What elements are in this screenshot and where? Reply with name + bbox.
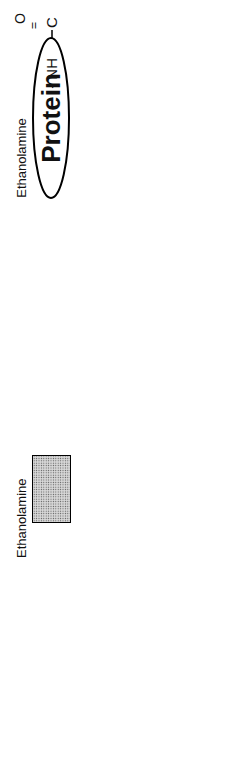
ethanolamine-label: Ethanolamine	[14, 479, 29, 559]
chain-layer: Ethanolamine	[0, 0, 225, 758]
ethanolamine-box	[32, 455, 71, 523]
gpi-anchor-diagram: Protein O = C - NH Ethanolamine Ethanola…	[0, 0, 225, 758]
